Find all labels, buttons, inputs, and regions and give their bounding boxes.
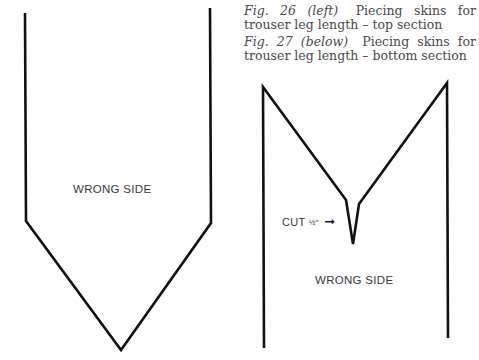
wrong-side-label-top: WRONG SIDE [73, 183, 151, 195]
arrow-right-icon: ➞ [324, 214, 335, 229]
cut-text: CUT [282, 216, 305, 228]
wrong-side-label-bottom: WRONG SIDE [315, 274, 393, 286]
cut-fraction: ½″ [309, 218, 319, 227]
cut-annotation: CUT ½″ ➞ [282, 214, 335, 229]
top-section-outline [25, 8, 211, 350]
pattern-diagrams [0, 0, 479, 360]
